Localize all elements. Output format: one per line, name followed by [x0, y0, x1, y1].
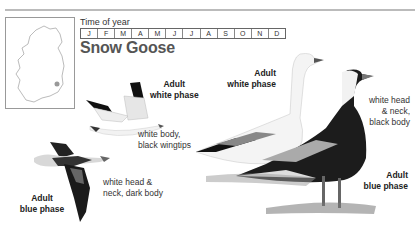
- month-dec: D: [268, 29, 285, 38]
- label-line: black wingtips: [138, 140, 191, 151]
- month-feb: F: [97, 29, 114, 38]
- flying-white-description: white body, black wingtips: [138, 129, 191, 151]
- label-line: & neck,: [360, 106, 410, 117]
- ireland-map-icon: [6, 18, 74, 108]
- label-line: white head &: [103, 177, 163, 188]
- standing-blue-description: white head & neck, black body: [360, 95, 410, 128]
- label-line: blue phase: [356, 181, 408, 192]
- month-may: M: [148, 29, 165, 38]
- distribution-map: [5, 17, 75, 109]
- label-line: white phase: [150, 90, 199, 101]
- label-line: Adult: [150, 79, 199, 90]
- month-strip: J F M A M J J A S O N D: [80, 28, 286, 39]
- label-line: neck, dark body: [103, 188, 163, 199]
- time-of-year-label: Time of year: [80, 17, 130, 27]
- month-jun: J: [165, 29, 182, 38]
- label-line: white body,: [138, 129, 191, 140]
- month-aug: A: [200, 29, 217, 38]
- month-jul: J: [182, 29, 199, 38]
- label-line: white head: [360, 95, 410, 106]
- label-line: white phase: [224, 79, 276, 90]
- flying-blue-description: white head & neck, dark body: [103, 177, 163, 199]
- label-line: Adult: [356, 170, 408, 181]
- species-title: Snow Goose: [80, 39, 175, 57]
- flying-white-title: Adult white phase: [150, 79, 199, 101]
- label-line: Adult: [224, 68, 276, 79]
- month-jan: J: [81, 29, 97, 38]
- month-apr: A: [131, 29, 148, 38]
- month-nov: N: [251, 29, 268, 38]
- month-sep: S: [217, 29, 234, 38]
- flying-blue-title: Adult blue phase: [18, 193, 66, 215]
- label-line: blue phase: [18, 204, 66, 215]
- standing-blue-title: Adult blue phase: [356, 170, 408, 192]
- label-line: Adult: [18, 193, 66, 204]
- top-divider: [5, 9, 415, 11]
- month-mar: M: [114, 29, 131, 38]
- month-oct: O: [234, 29, 251, 38]
- label-line: black body: [360, 117, 410, 128]
- standing-white-title: Adult white phase: [224, 68, 276, 90]
